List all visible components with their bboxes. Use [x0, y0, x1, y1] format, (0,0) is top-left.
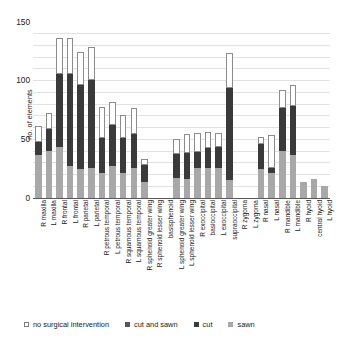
- stacked-bar[interactable]: [311, 179, 318, 198]
- stacked-bar[interactable]: [321, 186, 328, 198]
- legend-label: cut: [203, 320, 213, 329]
- stacked-bar[interactable]: [141, 159, 148, 198]
- stacked-bar[interactable]: [258, 137, 265, 198]
- legend-swatch-none: [24, 322, 29, 327]
- y-axis-tick-label: 100: [16, 76, 30, 84]
- legend-item[interactable]: cut and sawn: [125, 320, 178, 329]
- bar-segment-no-surgical-intervention: [290, 85, 297, 106]
- bar-segment-cut: [56, 74, 63, 147]
- bar-slot[interactable]: [171, 22, 182, 198]
- bar-slot[interactable]: [245, 22, 256, 198]
- bar-slot[interactable]: [235, 22, 246, 198]
- bar-segment-sawn: [88, 168, 95, 197]
- bar-segment-sawn: [131, 168, 138, 197]
- bar-slot[interactable]: [288, 22, 299, 198]
- x-label-slot: L exoccipital: [213, 200, 224, 300]
- x-label-slot: R squamous temporal: [118, 200, 129, 300]
- stacked-bar[interactable]: [99, 107, 106, 197]
- stacked-bar[interactable]: [88, 47, 95, 197]
- x-label-slot: R sphenoid greater wing: [139, 200, 150, 300]
- bar-slot[interactable]: [224, 22, 235, 198]
- bar-segment-no-surgical-intervention: [226, 53, 233, 88]
- bar-segment-sawn: [173, 178, 180, 198]
- stacked-bar[interactable]: [279, 90, 286, 198]
- legend-item[interactable]: sawn: [228, 320, 254, 329]
- stacked-bar[interactable]: [300, 182, 307, 197]
- bar-segment-sawn: [279, 151, 286, 198]
- bar-slot[interactable]: [44, 22, 55, 198]
- y-axis-tick-label: 50: [21, 135, 30, 143]
- bar-segment-sawn: [109, 166, 116, 198]
- stacked-bar[interactable]: [120, 115, 127, 197]
- x-label-slot: L maxilla: [44, 200, 55, 300]
- legend-swatch-cutsawn: [125, 322, 130, 327]
- x-label-slot: R nasal: [256, 200, 267, 300]
- bar-segment-no-surgical-intervention: [279, 90, 286, 109]
- stacked-bar[interactable]: [290, 85, 297, 198]
- bar-slot[interactable]: [118, 22, 129, 198]
- bar-segment-cut: [131, 134, 138, 168]
- x-label-slot: basioccipital: [203, 200, 214, 300]
- bar-slot[interactable]: [107, 22, 118, 198]
- stacked-bar[interactable]: [194, 133, 201, 198]
- bar-slot[interactable]: [319, 22, 330, 198]
- stacked-bar[interactable]: [173, 139, 180, 198]
- x-label-slot: R frontal: [54, 200, 65, 300]
- stacked-bar[interactable]: [35, 126, 42, 198]
- bar-segment-cut: [46, 129, 53, 150]
- bar-slot[interactable]: [75, 22, 86, 198]
- stacked-bar[interactable]: [131, 108, 138, 197]
- x-label-slot: L squamous temporal: [128, 200, 139, 300]
- bar-segment-sawn: [321, 186, 328, 198]
- stacked-bar[interactable]: [46, 113, 53, 197]
- bar-slot[interactable]: [86, 22, 97, 198]
- bar-slot[interactable]: [256, 22, 267, 198]
- x-label-slot: supraoccipital: [224, 200, 235, 300]
- stacked-bar[interactable]: [184, 134, 191, 197]
- stacked-bar[interactable]: [109, 102, 116, 197]
- bar-segment-cut: [99, 138, 106, 173]
- y-axis-tick-label: 0: [25, 194, 30, 202]
- bar-slot[interactable]: [182, 22, 193, 198]
- bar-slot[interactable]: [128, 22, 139, 198]
- bar-slot[interactable]: [277, 22, 288, 198]
- bar-segment-cut: [215, 147, 222, 168]
- bar-slot[interactable]: [213, 22, 224, 198]
- x-label-slot: R exoccipital: [192, 200, 203, 300]
- bar-segment-sawn: [141, 182, 148, 197]
- bar-slot[interactable]: [192, 22, 203, 198]
- bar-slot[interactable]: [33, 22, 44, 198]
- bar-slot[interactable]: [150, 22, 161, 198]
- bar-slot[interactable]: [266, 22, 277, 198]
- x-label-slot: R petrous temporal: [97, 200, 108, 300]
- legend-swatch-sawn: [228, 322, 233, 327]
- bar-slot[interactable]: [139, 22, 150, 198]
- stacked-bar[interactable]: [215, 133, 222, 198]
- legend-item[interactable]: no surgical intervention: [24, 320, 109, 329]
- bar-slot[interactable]: [54, 22, 65, 198]
- bar-segment-sawn: [290, 155, 297, 197]
- stacked-bar[interactable]: [205, 132, 212, 198]
- bar-slot[interactable]: [97, 22, 108, 198]
- bar-slot[interactable]: [309, 22, 320, 198]
- legend-item[interactable]: cut: [194, 320, 213, 329]
- x-label-slot: L parietal: [86, 200, 97, 300]
- stacked-bar[interactable]: [77, 52, 84, 197]
- x-label-slot: L zygoma: [245, 200, 256, 300]
- bar-segment-no-surgical-intervention: [77, 52, 84, 85]
- bar-slot[interactable]: [160, 22, 171, 198]
- x-label-slot: L petrous temporal: [107, 200, 118, 300]
- stacked-bar[interactable]: [56, 38, 63, 198]
- bar-segment-cut: [226, 88, 233, 180]
- stacked-bar[interactable]: [226, 53, 233, 197]
- bar-slot[interactable]: [65, 22, 76, 198]
- x-label-slot: R hyoid: [298, 200, 309, 300]
- stacked-bar[interactable]: [67, 38, 74, 198]
- bar-slot[interactable]: [203, 22, 214, 198]
- legend-swatch-cut: [194, 322, 199, 327]
- bar-segment-cut: [279, 108, 286, 150]
- bar-segment-no-surgical-intervention: [120, 115, 127, 137]
- bar-slot[interactable]: [298, 22, 309, 198]
- bar-segment-sawn: [311, 179, 318, 198]
- stacked-bar[interactable]: [268, 135, 275, 197]
